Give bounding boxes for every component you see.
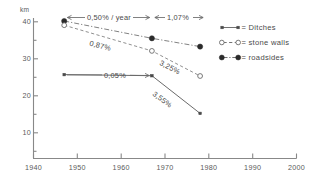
y-axis-ticks: [34, 22, 39, 152]
x-axis-tick-labels: 1940 1950 1960 1970 1980 1990 2000: [25, 163, 305, 172]
x-axis-ticks: [34, 154, 297, 159]
x-tick-label-1980: 1980: [200, 163, 217, 172]
legend-marker-roadsides-start-icon: [219, 55, 224, 60]
annotation-rate-ditches-late-label: 3,55%: [151, 89, 174, 109]
y-tick-label-40: 40: [22, 17, 31, 26]
annotation-rate-ditches-early-label: 0,05%: [104, 71, 126, 80]
annotation-rate-roadsides-early: 0,50% / year: [67, 13, 149, 22]
annotation-rate-roadsides-early-label: 0,50% / year: [87, 13, 131, 22]
annotation-rate-walls-late: 3,25%: [158, 58, 182, 76]
y-tick-label-30: 30: [22, 54, 31, 63]
datapoint-ditches-1978: [199, 112, 202, 115]
legend-equals-roadsides: =: [242, 53, 247, 62]
datapoint-stone-walls-1947: [62, 23, 67, 28]
x-tick-label-1940: 1940: [25, 163, 42, 172]
x-tick-label-1960: 1960: [113, 163, 130, 172]
legend-item-roadsides[interactable]: = roadsides: [219, 53, 284, 62]
annotation-rate-walls-early-label: 0,87%: [89, 39, 113, 53]
legend-marker-ditches-end-icon: [237, 26, 240, 29]
x-tick-label-1970: 1970: [156, 163, 173, 172]
datapoint-stone-walls-1978: [198, 74, 203, 79]
legend-equals-ditches: =: [242, 23, 247, 32]
legend-equals-stone-walls: =: [242, 38, 247, 47]
legend-label-stone-walls: stone walls: [249, 38, 290, 47]
line-chart-canvas: km 40 30 20 10 1940 1950 1960 1970 1980 …: [0, 0, 313, 180]
series-roadsides: [62, 18, 203, 49]
chart-legend: = Ditches = stone walls = roadsides: [219, 23, 289, 62]
annotation-rate-ditches-early: 0,05%: [67, 71, 149, 80]
annotation-rate-ditches-late: 3,55%: [151, 89, 174, 109]
legend-marker-stone-walls-end-icon: [236, 40, 241, 45]
y-axis-tick-labels: km 40 30 20 10: [20, 6, 31, 137]
series-stone-walls: [62, 23, 203, 79]
annotation-rate-roadsides-late-label: 1,07%: [167, 13, 189, 22]
legend-marker-roadsides-end-icon: [236, 55, 241, 60]
x-tick-label-1950: 1950: [69, 163, 86, 172]
legend-label-ditches: Ditches: [249, 23, 276, 32]
legend-marker-stone-walls-start-icon: [220, 40, 225, 45]
y-tick-label-20: 20: [22, 91, 31, 100]
x-tick-label-1990: 1990: [244, 163, 261, 172]
series-ditches: [63, 73, 202, 114]
chart-figure: km 40 30 20 10 1940 1950 1960 1970 1980 …: [0, 0, 313, 180]
legend-label-roadsides: roadsides: [249, 53, 285, 62]
annotation-rate-walls-late-label: 3,25%: [158, 58, 182, 76]
datapoint-ditches-1967: [151, 74, 154, 77]
legend-marker-ditches-start-icon: [221, 26, 224, 29]
datapoint-stone-walls-1967: [150, 49, 155, 54]
y-axis-unit-label: km: [20, 6, 30, 13]
legend-item-ditches[interactable]: = Ditches: [221, 23, 276, 32]
y-tick-label-10: 10: [22, 128, 31, 137]
series-roadsides-line: [64, 21, 200, 47]
series-ditches-line: [64, 75, 200, 114]
legend-item-stone-walls[interactable]: = stone walls: [220, 38, 290, 47]
datapoint-roadsides-1978: [198, 44, 203, 49]
x-tick-label-2000: 2000: [288, 163, 305, 172]
datapoint-ditches-1947: [63, 73, 66, 76]
datapoint-roadsides-1967: [149, 36, 154, 41]
annotation-rate-roadsides-late: 1,07%: [155, 13, 203, 22]
annotation-rate-walls-early: 0,87%: [89, 39, 113, 53]
